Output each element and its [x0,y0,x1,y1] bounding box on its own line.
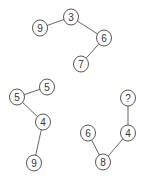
node-label: 4 [40,117,46,128]
node-label: 8 [100,157,106,168]
tree-bottom-right: ?468 [81,90,136,170]
tree-node: 4 [121,125,136,141]
node-label: 9 [31,158,37,169]
tree-node: 6 [97,30,112,46]
tree-node: 6 [81,125,96,141]
node-label: 5 [44,82,50,93]
tree-node: 3 [64,9,79,25]
node-label: 6 [101,33,107,44]
node-label: 7 [78,59,84,70]
tree-node: 9 [33,20,48,36]
node-label: ? [125,93,131,104]
node-label: 5 [14,92,20,103]
node-label: 3 [68,12,74,23]
tree-node: 5 [10,89,25,105]
tree-node: 9 [27,155,42,171]
tree-node: 5 [40,79,55,95]
tree-bottom-left: 5549 [10,79,55,171]
node-label: 9 [37,23,43,34]
tree-node: 8 [96,154,111,170]
tree-top: 9367 [33,9,112,72]
tree-puzzle-diagram: 93675549?468 [0,0,146,183]
unknown-node: ? [121,90,136,106]
node-label: 6 [85,128,91,139]
node-label: 4 [125,128,131,139]
tree-node: 4 [36,114,51,130]
tree-node: 7 [74,56,89,72]
